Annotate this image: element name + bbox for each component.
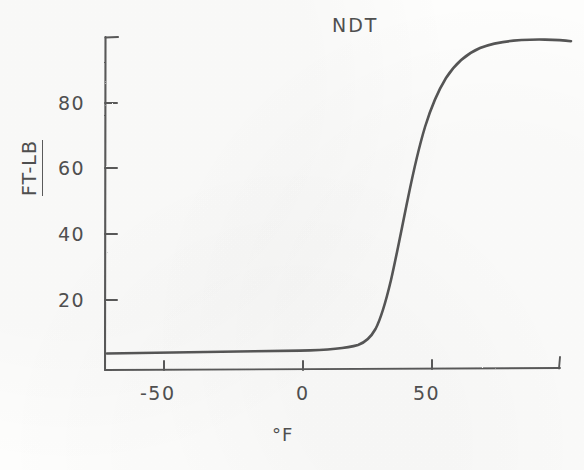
plot-canvas: [0, 0, 584, 470]
y-axis-title: FT-LB: [18, 140, 43, 196]
y-tick-label-20: 20: [58, 289, 85, 311]
y-tick-label-80: 80: [58, 92, 85, 114]
x-tick-label-minus50: -50: [140, 382, 176, 404]
y-axis: [105, 37, 118, 370]
chart-figure: 80 60 40 20 -50 0 50 FT-LB °F NDT: [0, 0, 584, 470]
x-tick-label-0: 0: [296, 382, 310, 404]
x-axis: [105, 357, 560, 370]
x-tick-label-50: 50: [413, 382, 440, 404]
x-axis-title: °F: [272, 424, 293, 445]
y-axis-ticks: [105, 103, 117, 300]
ndt-annotation-label: NDT: [332, 14, 378, 36]
y-tick-label-40: 40: [58, 223, 85, 245]
y-tick-label-60: 60: [58, 157, 85, 179]
transition-curve: [107, 40, 571, 354]
